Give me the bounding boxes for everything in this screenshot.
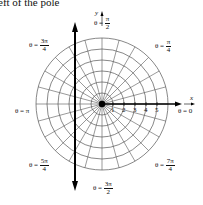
grid-ray	[69, 47, 102, 104]
pole-dot	[99, 101, 105, 107]
grid-ray	[102, 71, 159, 104]
grid-ray	[55, 104, 102, 151]
grid-ray	[55, 57, 102, 104]
tick-label-2: 2	[122, 107, 126, 114]
tick-label-5: 5	[155, 107, 159, 114]
x-arrow-icon	[191, 103, 195, 106]
angle-label-5pi-over-4: θ = 5π4	[29, 158, 49, 173]
tick-label-4: 4	[144, 107, 148, 114]
angle-label-7pi-over-4: θ = 7π4	[155, 158, 175, 173]
angle-label-3pi-over-2: θ = 3π2	[93, 181, 113, 196]
angle-label-pi: θ = π	[15, 108, 29, 115]
grid-ray	[45, 104, 102, 137]
angle-label-3pi-over-4: θ = 3π4	[29, 38, 49, 53]
tick-label-1: 1	[111, 107, 115, 114]
grid-ray	[45, 71, 102, 104]
vertical-line-down-arrow	[72, 181, 78, 191]
grid-ray	[69, 104, 102, 161]
angle-label-pi-over-4: θ = π4	[155, 39, 171, 54]
grid-ray	[102, 47, 135, 104]
vertical-line-up-arrow	[72, 22, 78, 32]
tick-label-3: 3	[133, 107, 137, 114]
angle-label-0: θ = 0	[178, 108, 192, 115]
polar-axis-arrowhead	[175, 102, 182, 107]
x-axis-label: x	[190, 94, 193, 102]
grid-ray	[102, 104, 135, 161]
angle-label-pi-over-2: θ = π2	[94, 16, 110, 31]
grid-ray	[102, 57, 149, 104]
